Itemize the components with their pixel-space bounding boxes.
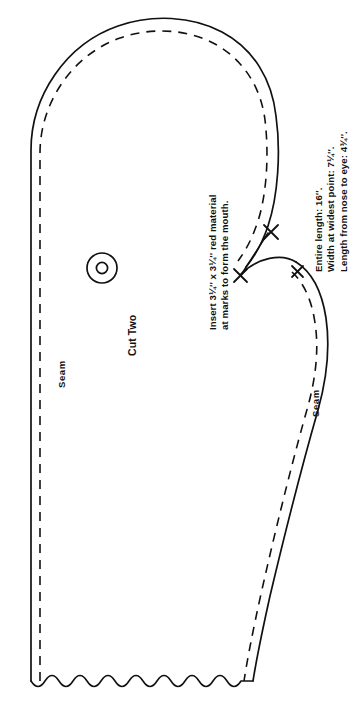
- eye-icon: [87, 253, 117, 283]
- label-seam-left: Seam: [56, 360, 68, 388]
- seam-line-lower-jaw: [244, 272, 317, 681]
- cutting-line-group: [31, 18, 328, 686]
- pattern-sheet: Cut Two Seam Seam Insert 3¼′′ x 3¼′′ red…: [0, 0, 356, 711]
- dimension-entire-length: Entire length: 16′′.: [313, 131, 325, 272]
- mouth-x-mark-lower: [292, 266, 303, 277]
- eye-outer-circle: [87, 253, 117, 283]
- cutting-line-bottom-scallop: [31, 676, 253, 687]
- insert-instruction-line-1: Insert 3¼′′ x 3¼′′ red material: [207, 195, 218, 331]
- eye-inner-circle: [96, 262, 107, 273]
- dimensions-note: Entire length: 16′′. Width at widest poi…: [313, 131, 350, 272]
- pattern-drawing: [0, 0, 356, 711]
- cutting-line-main: [31, 18, 278, 681]
- dimension-widest-point: Width at widest point: 7¼′′.: [325, 131, 337, 272]
- insert-instruction-note: Insert 3¼′′ x 3¼′′ red material at marks…: [207, 195, 232, 331]
- cutting-line-mouth: [240, 257, 296, 275]
- label-seam-right: Seam: [310, 389, 322, 417]
- label-cut-two: Cut Two: [126, 315, 139, 356]
- insert-note-leader-line: [241, 233, 268, 275]
- insert-instruction-line-2: at marks to form the mouth.: [219, 195, 231, 331]
- seam-line-group: [40, 31, 317, 681]
- dimension-nose-to-eye: Length from nose to eye: 4¾′′.: [338, 131, 350, 272]
- seam-line-main: [40, 31, 267, 681]
